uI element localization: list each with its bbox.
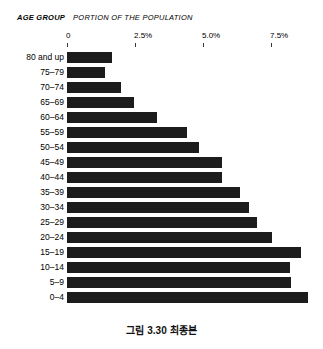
figure-container: AGE GROUPPORTION OF THE POPULATION 02.5%… — [0, 0, 323, 349]
bar-category-label: 50–54 — [0, 142, 64, 152]
bar — [67, 172, 222, 183]
bar-row: 40–44 — [0, 171, 323, 186]
bar — [67, 67, 105, 78]
bar — [67, 157, 222, 168]
x-axis-tick-mark — [271, 43, 272, 47]
x-axis-tick-label: 7.5% — [270, 31, 288, 40]
bar — [67, 52, 112, 63]
bar-row: 55–59 — [0, 126, 323, 141]
bar — [67, 187, 240, 198]
bar-row: 20–24 — [0, 231, 323, 246]
bars-plot-area: 80 and up75–7970–7465–6960–6455–5950–544… — [0, 51, 323, 306]
bar-category-label: 75–79 — [0, 67, 64, 77]
bar-row: 75–79 — [0, 66, 323, 81]
bar — [67, 97, 134, 108]
chart-header: AGE GROUPPORTION OF THE POPULATION — [17, 13, 193, 22]
x-axis-tick-label: 0 — [66, 31, 70, 40]
bar-row: 25–29 — [0, 216, 323, 231]
bar — [67, 247, 301, 258]
age-group-axis-title: AGE GROUP — [17, 13, 65, 22]
figure-caption: 그림 3.30 최종본 — [0, 322, 323, 337]
bar — [67, 202, 249, 213]
portion-axis-title: PORTION OF THE POPULATION — [73, 13, 193, 22]
bar — [67, 262, 290, 273]
bar — [67, 277, 291, 288]
bar-category-label: 20–24 — [0, 232, 64, 242]
bar-row: 0–4 — [0, 291, 323, 306]
bar-category-label: 35–39 — [0, 187, 64, 197]
bar-row: 60–64 — [0, 111, 323, 126]
bar-row: 80 and up — [0, 51, 323, 66]
x-axis-tick-mark — [203, 43, 204, 47]
bar — [67, 292, 308, 303]
bar-row: 5–9 — [0, 276, 323, 291]
bar-category-label: 40–44 — [0, 172, 64, 182]
bar-row: 65–69 — [0, 96, 323, 111]
bar-category-label: 0–4 — [0, 292, 64, 302]
bar-category-label: 15–19 — [0, 247, 64, 257]
x-axis-tick-mark — [67, 43, 68, 47]
x-axis-tick-label: 2.5% — [134, 31, 152, 40]
bar-row: 10–14 — [0, 261, 323, 276]
bar-row: 50–54 — [0, 141, 323, 156]
x-axis-tick-label: 5.0% — [202, 31, 220, 40]
bar-category-label: 5–9 — [0, 277, 64, 287]
bar-category-label: 65–69 — [0, 97, 64, 107]
bar-category-label: 60–64 — [0, 112, 64, 122]
bar-row: 70–74 — [0, 81, 323, 96]
bar — [67, 217, 257, 228]
bar-category-label: 70–74 — [0, 82, 64, 92]
bar-category-label: 10–14 — [0, 262, 64, 272]
bar-category-label: 30–34 — [0, 202, 64, 212]
bar-row: 15–19 — [0, 246, 323, 261]
bar-category-label: 25–29 — [0, 217, 64, 227]
bar-category-label: 55–59 — [0, 127, 64, 137]
bar — [67, 142, 199, 153]
bar — [67, 112, 157, 123]
bar — [67, 232, 272, 243]
bar-row: 35–39 — [0, 186, 323, 201]
bar-row: 45–49 — [0, 156, 323, 171]
bar-category-label: 80 and up — [0, 52, 64, 62]
bar-category-label: 45–49 — [0, 157, 64, 167]
bar-row: 30–34 — [0, 201, 323, 216]
bar — [67, 127, 187, 138]
x-axis-tick-mark — [135, 43, 136, 47]
bar — [67, 82, 121, 93]
